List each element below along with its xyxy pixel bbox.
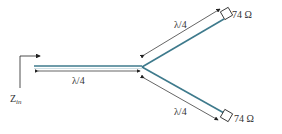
main-length-label: λ/4 xyxy=(72,75,85,86)
upper-load-box xyxy=(220,7,232,19)
power-divider-diagram: λ/4 74 Ω λ/4 λ/4 74 Ω Zin xyxy=(0,0,282,134)
zin-label: Zin xyxy=(10,93,22,106)
upper-load-label: 74 Ω xyxy=(232,9,252,20)
upper-length-arrow-icon xyxy=(144,9,220,55)
main-transmission-line xyxy=(34,66,142,69)
lower-length-label: λ/4 xyxy=(174,106,187,117)
zin-arrow-icon xyxy=(20,56,40,88)
lower-load-label: 74 Ω xyxy=(234,113,254,124)
upper-length-label: λ/4 xyxy=(174,19,187,30)
